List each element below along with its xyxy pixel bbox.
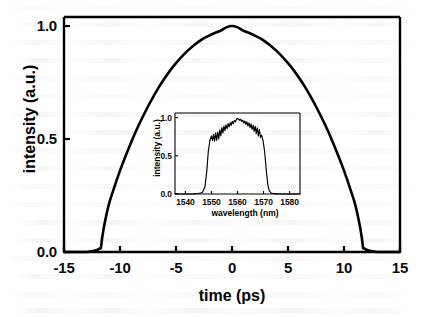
main-x-tick-label: -10: [100, 259, 140, 276]
inset-x-tick-label: 1560: [225, 197, 251, 207]
main-x-tick-label: 10: [324, 259, 364, 276]
main-y-tick-label: 1.0: [29, 17, 57, 34]
main-x-tick-label: -15: [44, 259, 84, 276]
inset-plot-canvas: [140, 105, 320, 225]
figure-pulse-intensity-vs-time: 1.00.50.0-15-10-5051015 intensity (a.u.)…: [0, 0, 422, 317]
main-x-tick-label: 0: [212, 259, 252, 276]
main-y-axis-title: intensity (a.u.): [21, 39, 39, 199]
inset-x-tick-label: 1570: [251, 197, 277, 207]
main-x-tick-label: -5: [156, 259, 196, 276]
inset-x-axis-title: wavelength (nm): [160, 208, 330, 218]
main-x-axis-title: time (ps): [64, 287, 400, 305]
inset-spectrum-panel: 1.00.50.015401550156015701580 intensity …: [140, 105, 320, 225]
inset-x-tick-label: 1540: [172, 197, 198, 207]
inset-axis-ticks: [175, 118, 290, 194]
inset-x-tick-label: 1550: [198, 197, 224, 207]
inset-y-axis-title: intensity (a.u.): [152, 115, 162, 181]
main-x-tick-label: 15: [380, 259, 420, 276]
main-y-tick-label: 0.0: [29, 243, 57, 260]
main-x-tick-label: 5: [268, 259, 308, 276]
inset-x-tick-label: 1580: [277, 197, 303, 207]
inset-y-tick-label: 0.0: [155, 189, 172, 199]
inset-plot-frame: [175, 113, 300, 194]
optical-spectrum-curve: [175, 118, 300, 194]
